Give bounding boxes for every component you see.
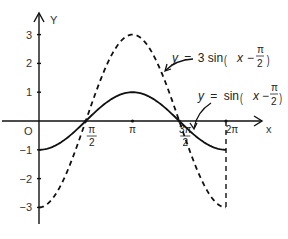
- svg-text:π: π: [271, 82, 278, 93]
- sine-chart: 321−1−2−3 π2π3π22π Y x O y = 3 sin ( x −…: [0, 0, 288, 239]
- x-tick: [131, 119, 134, 122]
- y-axis-label: Y: [50, 14, 58, 26]
- annotation-3sin: y = 3 sin ( x − π 2 ): [165, 44, 270, 71]
- axes: [2, 13, 262, 224]
- svg-text:y = sin: y = sin: [197, 89, 239, 103]
- x-tick-label: 2π: [226, 124, 239, 135]
- svg-text:y = 3 sin: y = 3 sin: [171, 51, 223, 65]
- svg-text:2: 2: [271, 96, 277, 107]
- svg-text:): ): [279, 92, 282, 105]
- y-tick-label: −3: [19, 201, 32, 213]
- y-tick-label: −1: [19, 144, 32, 156]
- x-ticks: π2π3π22π: [84, 119, 238, 148]
- svg-text:π: π: [257, 44, 264, 55]
- svg-text:(: (: [240, 92, 243, 105]
- annotation-sin: y = sin ( x − π 2 ): [190, 82, 282, 129]
- svg-text:x: x: [252, 89, 260, 103]
- y-tick-label: 3: [26, 29, 32, 41]
- y-tick-label: −2: [19, 173, 32, 185]
- x-tick-label: π: [129, 124, 136, 135]
- svg-text:−: −: [262, 89, 269, 103]
- svg-text:(: (: [224, 54, 227, 67]
- svg-text:): ): [267, 54, 270, 67]
- y-tick-label: 2: [26, 57, 32, 69]
- y-tick-label: 1: [26, 86, 32, 98]
- x-tick-label: π: [88, 124, 95, 135]
- x-tick-label-denominator: 2: [89, 137, 95, 148]
- svg-text:−: −: [247, 51, 254, 65]
- svg-text:2: 2: [257, 58, 263, 69]
- x-axis-label: x: [266, 123, 272, 135]
- svg-text:x: x: [236, 51, 244, 65]
- origin-label: O: [24, 125, 33, 137]
